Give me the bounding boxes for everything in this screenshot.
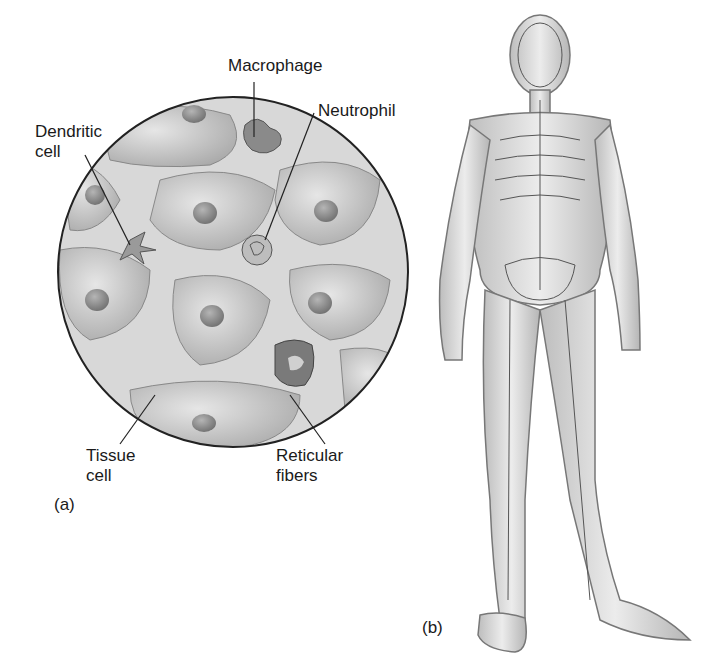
dendritic-cell-label-line1: Dendritic: [35, 122, 102, 142]
panel-b-label: (b): [422, 618, 443, 638]
macrophage-label: Macrophage: [228, 56, 323, 76]
reticular-fibers-label-line1: Reticular: [276, 446, 343, 466]
reticular-fibers-label-line2: fibers: [276, 466, 318, 486]
tissue-section-circle: [58, 97, 410, 450]
dendritic-cell-label-line2: cell: [35, 142, 61, 162]
human-figure: [440, 15, 690, 652]
neutrophil-label: Neutrophil: [318, 101, 396, 121]
tissue-cell-label-line1: Tissue: [86, 446, 135, 466]
tissue-cell-label-line2: cell: [86, 466, 112, 486]
panel-a-label: (a): [54, 495, 75, 515]
